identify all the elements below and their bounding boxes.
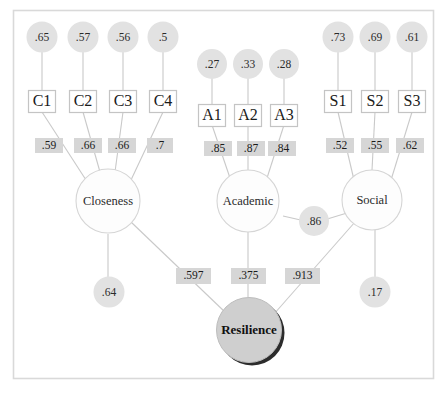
structural-path-academic[interactable]: .375: [231, 268, 266, 284]
factor-loading-c3[interactable]: .66: [108, 138, 136, 153]
latent-factor-social[interactable]: Social: [342, 170, 402, 230]
error-terms-group: .65 .57 .56 .5 .27 .33: [27, 22, 428, 80]
structural-path-closeness[interactable]: .597: [176, 268, 211, 284]
latent-factor-closeness[interactable]: Closeness: [76, 169, 140, 233]
disturbance-label-social: .17: [368, 286, 383, 298]
disturbance-social[interactable]: .17: [360, 277, 391, 308]
latent-label-academic: Academic: [223, 194, 274, 208]
observed-variable-s1[interactable]: S1: [325, 91, 352, 113]
loading-label-s1: .52: [333, 139, 348, 151]
observed-label-s3: S3: [404, 92, 421, 109]
observed-label-c2: C2: [74, 92, 93, 109]
latent-label-social: Social: [356, 193, 388, 207]
error-to-observed-lines: [42, 52, 412, 105]
factor-loading-s1[interactable]: .52: [326, 138, 354, 153]
loading-label-a2: .87: [244, 142, 259, 154]
loading-label-s3: .62: [403, 139, 418, 151]
observed-variables-group: C1 C2 C3 C4 A1 A2: [29, 91, 426, 127]
covariance-academic-social[interactable]: .86: [299, 206, 329, 236]
latent-label-closeness: Closeness: [83, 194, 133, 208]
observed-label-a1: A1: [202, 106, 222, 123]
observed-variable-s3[interactable]: S3: [399, 91, 426, 113]
structural-label-social: .913: [292, 269, 312, 281]
error-label-s2: .69: [368, 31, 383, 43]
structural-path-social[interactable]: .913: [285, 268, 320, 284]
outcome-resilience[interactable]: Resilience: [217, 298, 285, 366]
loading-label-c1: .59: [42, 139, 57, 151]
factor-loading-c1[interactable]: .59: [35, 138, 63, 153]
observed-label-s1: S1: [330, 92, 347, 109]
structural-label-academic: .375: [238, 269, 258, 281]
error-term-c4[interactable]: .5: [148, 22, 179, 53]
error-term-c2[interactable]: .57: [68, 22, 99, 53]
factor-loading-s3[interactable]: .62: [396, 138, 424, 153]
error-label-a2: .33: [241, 58, 256, 70]
error-label-c3: .56: [116, 31, 131, 43]
factor-loading-a2[interactable]: .87: [237, 141, 265, 156]
observed-variable-a3[interactable]: A3: [271, 105, 298, 127]
factor-loading-c2[interactable]: .66: [74, 138, 102, 153]
loading-label-c3: .66: [115, 139, 130, 151]
loading-label-c2: .66: [81, 139, 96, 151]
loading-label-c4: .7: [156, 139, 165, 151]
observed-label-a3: A3: [274, 106, 294, 123]
observed-variable-c2[interactable]: C2: [70, 91, 97, 113]
observed-label-s2: S2: [367, 92, 384, 109]
observed-variable-a2[interactable]: A2: [235, 105, 262, 127]
error-label-a1: .27: [205, 58, 220, 70]
error-term-c3[interactable]: .56: [108, 22, 139, 53]
observed-variable-c4[interactable]: C4: [150, 91, 177, 113]
disturbance-closeness[interactable]: .64: [94, 277, 125, 308]
factor-loading-a1[interactable]: .85: [204, 141, 232, 156]
observed-variable-c1[interactable]: C1: [29, 91, 56, 113]
observed-label-a2: A2: [238, 106, 258, 123]
factor-loading-c4[interactable]: .7: [147, 138, 173, 153]
observed-label-c3: C3: [114, 92, 133, 109]
error-term-s3[interactable]: .61: [397, 22, 428, 53]
loading-label-a3: .84: [275, 142, 290, 154]
observed-variable-s2[interactable]: S2: [362, 91, 389, 113]
path-diagram-canvas: .65 .57 .56 .5 .27 .33: [0, 0, 447, 393]
error-label-a3: .28: [277, 58, 292, 70]
error-label-s3: .61: [405, 31, 420, 43]
structural-label-closeness: .597: [183, 269, 203, 281]
latent-factors-group: Closeness Academic Social: [76, 169, 402, 233]
latent-factor-academic[interactable]: Academic: [217, 170, 279, 232]
error-term-a3[interactable]: .28: [269, 49, 299, 79]
sem-diagram-page: .65 .57 .56 .5 .27 .33: [0, 0, 447, 393]
error-term-a1[interactable]: .27: [197, 49, 227, 79]
error-label-c4: .5: [159, 31, 168, 43]
observed-label-c1: C1: [33, 92, 52, 109]
error-label-s1: .73: [331, 31, 346, 43]
observed-label-c4: C4: [154, 92, 173, 109]
line-closeness-to-resilience: [131, 222, 226, 313]
loading-label-s2: .55: [368, 139, 383, 151]
error-label-c2: .57: [76, 31, 91, 43]
error-term-s2[interactable]: .69: [360, 22, 391, 53]
resilience-label: Resilience: [221, 322, 277, 337]
error-label-c1: .65: [35, 31, 50, 43]
factor-loading-s2[interactable]: .55: [361, 138, 389, 153]
error-term-c1[interactable]: .65: [27, 22, 58, 53]
factor-loading-a3[interactable]: .84: [268, 141, 296, 156]
factor-loadings-group: .59 .66 .66 .7 .85 .87: [35, 138, 424, 156]
observed-variable-c3[interactable]: C3: [110, 91, 137, 113]
structural-coefficients-group: .597 .375 .913: [176, 268, 320, 284]
error-term-a2[interactable]: .33: [233, 49, 263, 79]
error-term-s1[interactable]: .73: [323, 22, 354, 53]
covariance-label: .86: [307, 215, 322, 227]
disturbance-label-closeness: .64: [102, 286, 117, 298]
observed-variable-a1[interactable]: A1: [199, 105, 226, 127]
loading-label-a1: .85: [211, 142, 226, 154]
